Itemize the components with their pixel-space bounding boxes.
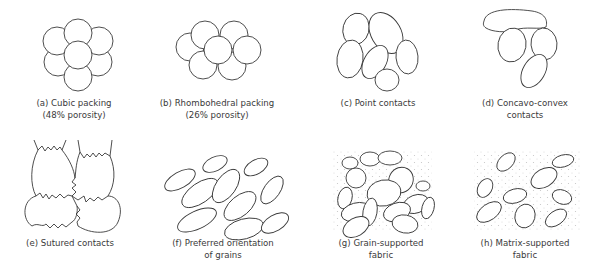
panel-f-caption: (f) Preferred orientation	[172, 237, 274, 249]
rhombohedral-packing-figure	[176, 21, 261, 80]
panel-e-label: (e) Sutured contacts	[26, 237, 114, 249]
matrix-supported-fabric-figure	[473, 149, 580, 230]
panel-a-label: (a) Cubic packing (48% porosity)	[36, 97, 111, 121]
point-contacts-figure	[334, 6, 419, 91]
concavo-convex-contacts-figure	[483, 10, 558, 93]
panel-e-caption: (e) Sutured contacts	[26, 237, 114, 249]
panel-f-label: (f) Preferred orientation of grains	[172, 237, 274, 261]
panel-c-label: (c) Point contacts	[341, 97, 416, 109]
grain-packing-diagram	[0, 0, 596, 269]
panel-a-caption-detail: (48% porosity)	[36, 109, 111, 121]
cubic-packing-figure	[43, 19, 113, 91]
panel-g-caption-detail: fabric	[338, 249, 423, 261]
panel-g-label: (g) Grain-supported fabric	[338, 237, 423, 261]
panel-h-label: (h) Matrix-supported fabric	[481, 237, 570, 261]
panel-a-caption: (a) Cubic packing	[36, 97, 111, 109]
panel-h-caption-detail: fabric	[481, 249, 570, 261]
panel-d-caption: (d) Concavo-convex	[482, 97, 568, 109]
panel-b-label: (b) Rhombohedral packing (26% porosity)	[160, 97, 274, 121]
panel-h-caption: (h) Matrix-supported	[481, 237, 570, 249]
grain-supported-fabric-figure	[332, 150, 437, 242]
panel-b-caption-detail: (26% porosity)	[160, 109, 274, 121]
panel-g-caption: (g) Grain-supported	[338, 237, 423, 249]
panel-c-caption: (c) Point contacts	[341, 97, 416, 109]
panel-d-label: (d) Concavo-convex contacts	[482, 97, 568, 121]
preferred-orientation-figure	[161, 152, 292, 244]
panel-b-caption: (b) Rhombohedral packing	[160, 97, 274, 109]
panel-f-caption-detail: of grains	[172, 249, 274, 261]
sutured-contacts-figure	[25, 140, 120, 232]
panel-d-caption-detail: contacts	[482, 109, 568, 121]
